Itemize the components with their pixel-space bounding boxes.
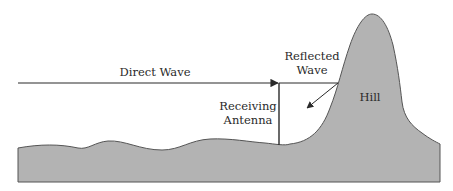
receiving-antenna-label-line2: Antenna <box>223 113 273 127</box>
hill-label: Hill <box>359 90 380 104</box>
receiving-antenna-label-line1: Receiving <box>219 99 277 113</box>
multipath-diagram: Direct Wave Reflected Wave Receiving Ant… <box>0 0 453 191</box>
direct-wave-label: Direct Wave <box>120 65 191 79</box>
reflected-wave-label-line2: Wave <box>297 63 328 77</box>
reflected-wave-label-line1: Reflected <box>284 49 340 63</box>
